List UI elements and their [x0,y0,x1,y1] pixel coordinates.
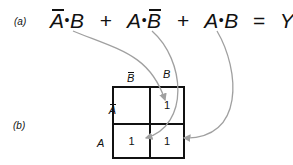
arrow-term3-to-cell [184,31,233,138]
arrow-term1-to-cell [73,31,165,100]
mapping-arrows [0,0,293,165]
arrow-term2-to-cell [146,31,178,138]
